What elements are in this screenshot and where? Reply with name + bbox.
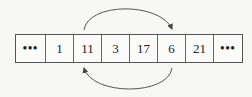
array-cell-ellipsis-left: ••• [16, 35, 46, 62]
array: ••• 1 11 3 17 6 21 ••• [15, 34, 243, 63]
array-cell-swap-a: 11 [74, 35, 102, 62]
bottom-arrow-icon [84, 68, 172, 89]
array-cell: 1 [46, 35, 74, 62]
array-cell: 21 [186, 35, 214, 62]
array-cell: 17 [130, 35, 158, 62]
array-cell-ellipsis-right: ••• [214, 35, 242, 62]
top-arrow-icon [84, 9, 172, 30]
array-cell-swap-b: 6 [158, 35, 186, 62]
array-cell: 3 [102, 35, 130, 62]
swap-diagram: ••• 1 11 3 17 6 21 ••• [0, 0, 252, 97]
